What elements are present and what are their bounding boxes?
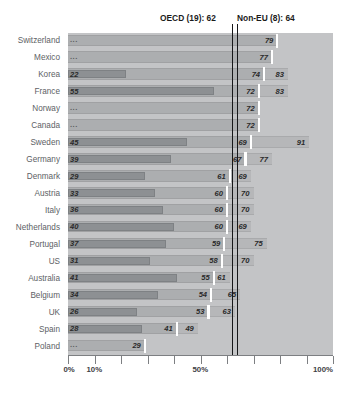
axis-tick: [227, 356, 228, 364]
value-label-second: 29: [68, 341, 141, 350]
chart-row: 345465: [68, 287, 333, 304]
value-marker: [144, 339, 146, 353]
value-label-third: 65: [68, 290, 236, 299]
chart-row: 284149: [68, 321, 333, 338]
value-label-third: 61: [68, 273, 226, 282]
chart-row: 315870: [68, 253, 333, 270]
chart-row: 406069: [68, 219, 333, 236]
category-label: Italy: [45, 206, 60, 216]
value-marker: [271, 50, 273, 64]
axis-tick: [280, 356, 281, 364]
category-axis: SwitzerlandMexicoKoreaFranceNorwayCanada…: [0, 33, 64, 355]
category-label: UK: [49, 308, 60, 318]
chart-row: ...77: [68, 50, 333, 67]
value-label-third: 63: [68, 307, 231, 316]
axis-tick: [333, 356, 334, 364]
chart-row: 336070: [68, 186, 333, 203]
category-label: Sweden: [30, 138, 60, 148]
category-label: Australia: [28, 274, 60, 284]
non-eu-reference-line: [237, 24, 238, 355]
value-label-second: 72: [68, 104, 255, 113]
category-label: France: [35, 87, 60, 97]
value-label-second: 79: [68, 36, 273, 45]
value-label-third: 49: [68, 324, 194, 333]
axis-tick: [307, 356, 308, 364]
chart-row: ...29: [68, 338, 333, 355]
value-label-second: 72: [68, 121, 255, 130]
value-label-third: 70: [68, 256, 250, 265]
chart-row: 415561: [68, 270, 333, 287]
axis-tick: [254, 356, 255, 364]
category-label: Portugal: [30, 240, 61, 250]
category-label: Poland: [35, 342, 61, 352]
value-label-third: 83: [68, 70, 284, 79]
axis-tick: [201, 356, 202, 364]
value-label-third: 75: [68, 239, 263, 248]
chart-row: ...79: [68, 33, 333, 50]
value-label-third: 70: [68, 205, 250, 214]
value-label-third: 69: [68, 222, 247, 231]
chart-row: 456991: [68, 135, 333, 152]
value-label-third: 70: [68, 189, 250, 198]
category-label: Netherlands: [16, 223, 60, 233]
value-axis: [68, 355, 333, 364]
bars-layer: ...79...77227483557283...72...7245699139…: [68, 33, 333, 355]
category-label: Belgium: [30, 291, 60, 301]
category-label: Mexico: [34, 53, 60, 63]
value-marker: [258, 101, 260, 115]
axis-tick-label: 0%: [64, 365, 75, 374]
axis-tick: [148, 356, 149, 364]
category-label: Switzerland: [18, 36, 60, 46]
chart-row: 265363: [68, 304, 333, 321]
chart-row: 296169: [68, 169, 333, 186]
chart-row: 227483: [68, 67, 333, 84]
category-label: Canada: [31, 121, 60, 131]
chart-row: 557283: [68, 84, 333, 101]
chart-row: 396777: [68, 152, 333, 169]
value-label-third: 83: [68, 87, 284, 96]
category-label: Austria: [35, 189, 60, 199]
axis-tick: [174, 356, 175, 364]
category-label: Germany: [26, 155, 60, 165]
chart-header: OECD (19): 62 Non-EU (8): 64: [0, 0, 356, 33]
category-label: US: [49, 257, 60, 267]
chart-row: 375975: [68, 236, 333, 253]
category-label: Denmark: [27, 172, 60, 182]
axis-tick: [68, 356, 69, 364]
category-label: Spain: [39, 325, 60, 335]
oecd-reference-line: [232, 24, 233, 355]
axis-tick-label: 100%: [313, 365, 333, 374]
chart-row: ...72: [68, 118, 333, 135]
value-label-third: 69: [68, 172, 247, 181]
oecd-reference-label: OECD (19): 62: [160, 13, 216, 23]
category-label: Korea: [38, 70, 60, 80]
value-label-third: 91: [68, 138, 305, 147]
value-marker: [276, 34, 278, 48]
chart-row: ...72: [68, 101, 333, 118]
non-eu-reference-label: Non-EU (8): 64: [237, 13, 295, 23]
category-label: Norway: [32, 104, 60, 114]
chart-row: 366070: [68, 202, 333, 219]
axis-tick: [121, 356, 122, 364]
axis-tick-label: 10%: [87, 365, 103, 374]
value-marker: [258, 118, 260, 132]
axis-tick-label: 50%: [193, 365, 209, 374]
axis-tick: [95, 356, 96, 364]
